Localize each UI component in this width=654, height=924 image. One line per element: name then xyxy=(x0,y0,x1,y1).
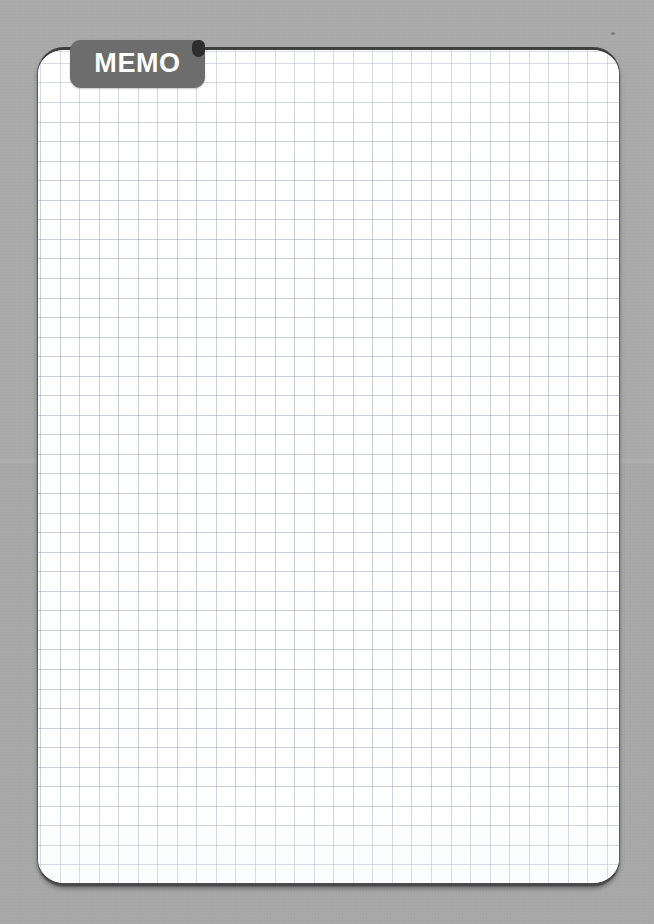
memo-pad-screen: MEMO xyxy=(0,0,654,924)
memo-content-area[interactable] xyxy=(62,106,595,859)
memo-tab-label: MEMO xyxy=(94,50,180,78)
backdrop-speck xyxy=(611,32,615,35)
memo-tab[interactable]: MEMO xyxy=(70,40,205,88)
memo-note-card[interactable] xyxy=(37,47,620,886)
tab-binding-dot-icon xyxy=(192,40,205,57)
